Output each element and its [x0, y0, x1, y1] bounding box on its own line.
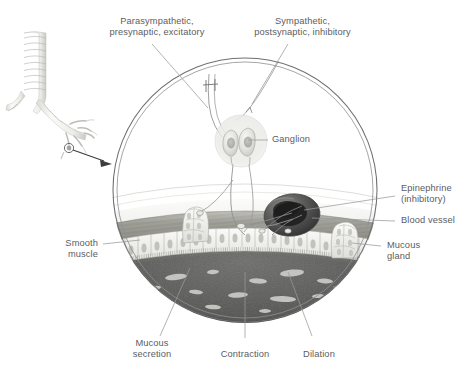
label-contraction: Contraction: [203, 349, 287, 360]
label-ganglion: Ganglion: [272, 134, 342, 145]
label-sympathetic: Sympathetic, postsynaptic, inhibitory: [225, 16, 380, 39]
label-blood-vessel: Blood vessel: [401, 215, 467, 226]
label-mucous-gland: Mucous gland: [387, 240, 457, 263]
label-parasympathetic: Parasympathetic, presynaptic, excitatory: [77, 16, 237, 39]
label-dilation: Dilation: [288, 349, 350, 360]
label-mucous-secretion: Mucous secretion: [111, 338, 193, 361]
mucous-gland-right: [331, 222, 358, 258]
bronchial-wall-illustration: [0, 0, 467, 377]
bronchial-tree-inset: [6, 32, 112, 168]
label-smooth-muscle: Smooth muscle: [24, 238, 98, 261]
ganglion: [215, 115, 267, 167]
mucous-gland-left: [183, 207, 209, 243]
label-epinephrine: Epinephrine (inhibitory): [401, 183, 467, 206]
figure-canvas: Parasympathetic, presynaptic, excitatory…: [0, 0, 467, 377]
trachea-icon: [6, 32, 97, 160]
magnification-arrow: [73, 150, 112, 167]
